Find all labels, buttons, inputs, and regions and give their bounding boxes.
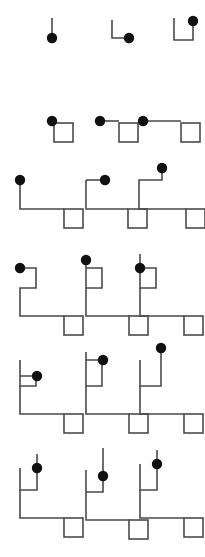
dot-terminal (124, 33, 134, 43)
dot-terminal (135, 263, 145, 273)
diagram-canvas (134, 252, 205, 352)
dot-terminal (95, 116, 105, 126)
square-terminal (184, 518, 203, 537)
diagram-cell-r1c3 (170, 14, 205, 114)
dot-terminal (32, 371, 42, 381)
connector-path-2 (140, 386, 184, 414)
dot-terminal (98, 471, 108, 481)
dot-terminal (156, 343, 166, 353)
connector-path (86, 260, 129, 316)
figure-grid (0, 0, 205, 557)
connector-path-2 (86, 492, 129, 520)
dot-terminal (152, 459, 162, 469)
square-terminal (181, 123, 200, 142)
dot-terminal (47, 116, 57, 126)
connector-path (140, 348, 161, 386)
dot-terminal (157, 163, 167, 173)
diagram-canvas (134, 446, 205, 546)
square-terminal (184, 414, 203, 433)
dot-terminal (15, 263, 25, 273)
connector-path-2 (20, 386, 64, 414)
dot-terminal (32, 463, 42, 473)
dot-terminal (15, 175, 25, 185)
connector-path (139, 168, 186, 209)
diagram-canvas (134, 160, 205, 260)
connector-path-2 (140, 490, 184, 518)
dot-terminal (138, 116, 148, 126)
connector-path (86, 448, 103, 492)
connector-path-2 (140, 288, 184, 316)
dot-terminal (47, 33, 57, 43)
connector-path (140, 450, 157, 490)
diagram-cell-r3c3 (134, 160, 205, 260)
connector-path-2 (20, 490, 64, 518)
diagram-cell-r5c3 (134, 340, 205, 440)
connector-path (20, 268, 64, 316)
diagram-canvas (170, 14, 205, 114)
square-terminal (54, 123, 73, 142)
dot-terminal (81, 255, 91, 265)
dot-terminal (188, 16, 198, 26)
dot-terminal (100, 175, 110, 185)
connector-path (20, 180, 64, 209)
square-terminal (186, 209, 205, 228)
diagram-canvas (134, 340, 205, 440)
square-terminal (184, 316, 203, 335)
connector-path-2 (86, 386, 129, 414)
dot-terminal (98, 355, 108, 365)
diagram-cell-r4c3 (134, 252, 205, 352)
diagram-cell-r6c3 (134, 446, 205, 546)
